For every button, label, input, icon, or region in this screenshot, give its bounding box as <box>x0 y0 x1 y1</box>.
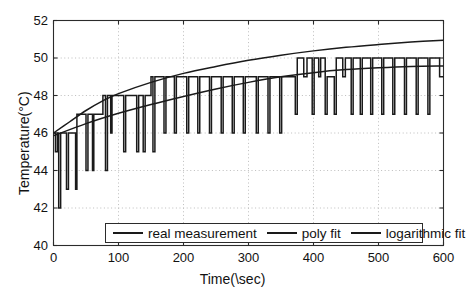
x-tick-label: 300 <box>229 250 269 265</box>
x-tick-label: 0 <box>34 250 74 265</box>
x-tick-label: 400 <box>294 250 334 265</box>
y-tick-label: 52 <box>20 13 48 28</box>
x-tick-label: 200 <box>164 250 204 265</box>
x-tick-label: 500 <box>359 250 399 265</box>
legend-label: real measurement <box>148 226 260 241</box>
x-axis-title: Time(\sec) <box>0 271 465 287</box>
legend-swatch-line-icon <box>267 232 297 234</box>
x-tick-label: 600 <box>424 250 464 265</box>
legend-item-real-measurement[interactable]: real measurement <box>106 226 260 241</box>
y-axis-title: Temperature(°C) <box>16 91 32 195</box>
y-tick-label: 42 <box>20 200 48 215</box>
legend-swatch-line-icon <box>113 232 143 234</box>
y-tick-label: 50 <box>20 50 48 65</box>
legend-label: logarithmic fit <box>386 226 468 241</box>
legend-label: poly fit <box>302 226 344 241</box>
chart-legend[interactable]: real measurement poly fit logarithmic fi… <box>105 223 423 243</box>
legend-item-poly-fit[interactable]: poly fit <box>260 226 344 241</box>
legend-swatch-line-icon <box>351 232 381 234</box>
x-tick-label: 100 <box>99 250 139 265</box>
legend-item-logarithmic-fit[interactable]: logarithmic fit <box>344 226 468 241</box>
